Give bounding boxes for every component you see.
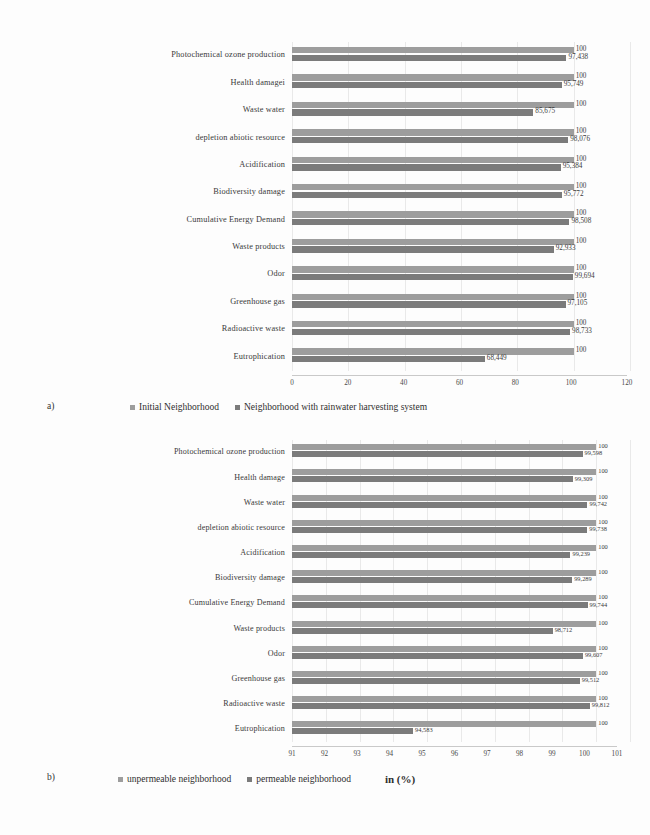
category-label: Cumulative Energy Demand [30, 599, 292, 607]
grid-line [630, 717, 631, 742]
axis-tick-label: 97 [483, 750, 490, 758]
bar-row: Acidification10095,384 [30, 152, 630, 179]
bar-series1 [292, 321, 574, 327]
bar-value-label: 99,239 [572, 551, 590, 557]
bar-series1 [292, 570, 596, 576]
bar-group: 10099,738 [292, 516, 630, 541]
bar-series1 [292, 469, 596, 475]
legend-swatch-icon [235, 405, 240, 410]
grid-line [630, 261, 631, 288]
grid-line [630, 69, 631, 96]
figure-b: Photochemical ozone production10099,598H… [0, 428, 650, 808]
bar-series2 [292, 527, 587, 533]
grid-line [630, 206, 631, 233]
panel-letter-b: b) [47, 772, 55, 782]
bar-value-label: 100 [598, 544, 608, 550]
bar-series2 [292, 451, 583, 457]
bar-row: Waste water10085,675 [30, 97, 630, 124]
legend-item[interactable]: permeable neighborhood [247, 774, 351, 784]
bar-value-label: 100 [598, 620, 608, 626]
bar-value-label: 100 [598, 670, 608, 676]
grid-line [630, 179, 631, 206]
bar-series1 [292, 184, 574, 190]
bar-value-label: 85,675 [535, 108, 555, 115]
bar-value-label: 100 [598, 494, 608, 500]
bar-series2 [292, 678, 580, 684]
x-axis-a: 020406080100120 [292, 375, 627, 391]
axis-tick-label: 100 [566, 379, 577, 387]
bar-group: 10098,508 [292, 206, 630, 233]
category-label: depletion abiotic resource [30, 134, 292, 143]
bar-group: 10097,438 [292, 42, 630, 69]
bar-row: Eutrophication10094,583 [30, 717, 630, 742]
grid-line [630, 591, 631, 616]
category-label: Greenhouse gas [30, 298, 292, 307]
legend-swatch-icon [118, 777, 123, 782]
category-label: Radioactive waste [30, 700, 292, 708]
axis-tick-label: 100 [579, 750, 590, 758]
bar-row: Cumulative Energy Demand10099,744 [30, 591, 630, 616]
document-page: Photochemical ozone production10097,438H… [0, 0, 650, 835]
category-label: Health damagei [30, 79, 292, 88]
axis-tick-label: 80 [512, 379, 519, 387]
bar-row: depletion abiotic resource10098,076 [30, 124, 630, 151]
bar-series2 [292, 628, 553, 634]
bar-series2 [292, 653, 583, 659]
bar-row: Biodiversity damage10099,289 [30, 566, 630, 591]
bar-series1 [292, 74, 574, 80]
axis-line [292, 375, 627, 376]
bar-value-label: 95,384 [563, 163, 583, 170]
category-label: Eutrophication [30, 725, 292, 733]
bar-row: Odor10099,694 [30, 261, 630, 288]
bar-series1 [292, 495, 596, 501]
axis-tick-label: 20 [344, 379, 351, 387]
axis-tick-label: 91 [288, 750, 295, 758]
bar-series2 [292, 356, 485, 362]
panel-letter-a: a) [47, 401, 54, 411]
legend-item[interactable]: Neighborhood with rainwater harvesting s… [235, 402, 427, 412]
bar-series1 [292, 348, 574, 354]
grid-line [596, 541, 597, 566]
bar-group: 10068,449 [292, 343, 630, 370]
bar-series1 [292, 721, 596, 727]
bar-group: 10099,607 [292, 642, 630, 667]
grid-line [596, 717, 597, 742]
bar-series2 [292, 329, 570, 335]
bar-series1 [292, 211, 574, 217]
bar-value-label: 100 [576, 347, 587, 354]
bar-series2 [292, 246, 554, 252]
grid-line [630, 490, 631, 515]
legend-item[interactable]: unpermeable neighborhood [118, 774, 231, 784]
x-axis-b: 919293949596979899100101 [292, 746, 617, 762]
grid-line [630, 42, 631, 69]
bar-group: 10099,309 [292, 465, 630, 490]
grid-line [574, 97, 575, 124]
bar-row: depletion abiotic resource10099,738 [30, 516, 630, 541]
bar-series1 [292, 595, 596, 601]
axis-unit-label: in (%) [385, 773, 415, 785]
axis-tick-label: 101 [612, 750, 623, 758]
bar-series1 [292, 671, 596, 677]
category-label: Radioactive waste [30, 325, 292, 334]
bar-value-label: 100 [576, 238, 587, 245]
grid-line [630, 566, 631, 591]
bar-series2 [292, 192, 562, 198]
legend-swatch-icon [130, 405, 135, 410]
bar-series1 [292, 47, 574, 53]
legend-label: Initial Neighborhood [139, 402, 219, 412]
bar-group: 10085,675 [292, 97, 630, 124]
legend-item[interactable]: Initial Neighborhood [130, 402, 219, 412]
bar-group: 10099,598 [292, 440, 630, 465]
category-label: Waste products [30, 625, 292, 633]
legend-swatch-icon [247, 777, 252, 782]
bar-row: Acidification10099,239 [30, 541, 630, 566]
legend-label: permeable neighborhood [256, 774, 351, 784]
category-label: Waste water [30, 106, 292, 115]
category-label: Eutrophication [30, 353, 292, 362]
bar-row: Odor10099,607 [30, 642, 630, 667]
bar-value-label: 98,712 [555, 627, 573, 633]
grid-line [630, 465, 631, 490]
legend-b: unpermeable neighborhoodpermeable neighb… [118, 773, 415, 785]
bar-value-label: 99,512 [582, 677, 600, 683]
category-label: Waste products [30, 243, 292, 252]
